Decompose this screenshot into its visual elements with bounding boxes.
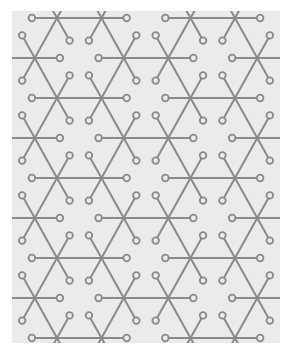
terminal-circle-icon <box>229 215 236 222</box>
terminal-circle-icon <box>219 312 226 319</box>
terminal-circle-icon <box>66 117 73 124</box>
lattice-pattern <box>12 11 280 343</box>
terminal-circle-icon <box>219 197 226 204</box>
terminal-circle-icon <box>19 272 26 279</box>
terminal-circle-icon <box>152 157 159 164</box>
terminal-circle-icon <box>133 237 140 244</box>
terminal-circle-icon <box>29 95 36 102</box>
terminal-circle-icon <box>133 112 140 119</box>
terminal-circle-icon <box>86 117 93 124</box>
terminal-circle-icon <box>133 192 140 199</box>
terminal-circle-icon <box>66 152 73 159</box>
terminal-circle-icon <box>133 157 140 164</box>
terminal-circle-icon <box>19 112 26 119</box>
terminal-circle-icon <box>57 215 64 222</box>
terminal-circle-icon <box>66 197 73 204</box>
terminal-circle-icon <box>162 95 169 102</box>
terminal-circle-icon <box>123 15 130 22</box>
terminal-circle-icon <box>200 312 207 319</box>
terminal-circle-icon <box>86 277 93 284</box>
pattern-panel <box>12 11 280 343</box>
terminal-circle-icon <box>200 117 207 124</box>
terminal-circle-icon <box>152 272 159 279</box>
terminal-circle-icon <box>152 192 159 199</box>
terminal-circle-icon <box>19 317 26 324</box>
terminal-circle-icon <box>19 192 26 199</box>
terminal-circle-icon <box>190 55 197 62</box>
terminal-circle-icon <box>57 295 64 302</box>
terminal-circle-icon <box>123 175 130 182</box>
terminal-circle-icon <box>200 232 207 239</box>
terminal-circle-icon <box>19 157 26 164</box>
terminal-circle-icon <box>267 317 274 324</box>
terminal-circle-icon <box>123 95 130 102</box>
terminal-circle-icon <box>133 77 140 84</box>
terminal-circle-icon <box>229 295 236 302</box>
terminal-circle-icon <box>152 77 159 84</box>
terminal-circle-icon <box>219 277 226 284</box>
terminal-circle-icon <box>86 37 93 44</box>
terminal-circle-icon <box>86 197 93 204</box>
terminal-circle-icon <box>267 77 274 84</box>
terminal-circle-icon <box>162 175 169 182</box>
terminal-circle-icon <box>95 55 102 62</box>
terminal-circle-icon <box>162 255 169 262</box>
terminal-circle-icon <box>66 312 73 319</box>
terminal-circle-icon <box>86 232 93 239</box>
terminal-circle-icon <box>133 317 140 324</box>
terminal-circle-icon <box>19 237 26 244</box>
terminal-circle-icon <box>66 277 73 284</box>
terminal-circle-icon <box>123 255 130 262</box>
terminal-circle-icon <box>219 117 226 124</box>
terminal-circle-icon <box>57 55 64 62</box>
terminal-circle-icon <box>95 135 102 142</box>
terminal-circle-icon <box>257 335 264 342</box>
terminal-circle-icon <box>123 335 130 342</box>
terminal-circle-icon <box>95 295 102 302</box>
terminal-circle-icon <box>257 175 264 182</box>
terminal-circle-icon <box>152 237 159 244</box>
terminal-circle-icon <box>29 335 36 342</box>
terminal-circle-icon <box>257 255 264 262</box>
terminal-circle-icon <box>19 77 26 84</box>
terminal-circle-icon <box>152 112 159 119</box>
terminal-circle-icon <box>162 15 169 22</box>
terminal-circle-icon <box>257 95 264 102</box>
terminal-circle-icon <box>66 232 73 239</box>
terminal-circle-icon <box>66 72 73 79</box>
terminal-circle-icon <box>219 37 226 44</box>
terminal-circle-icon <box>133 32 140 39</box>
terminal-circle-icon <box>267 157 274 164</box>
terminal-circle-icon <box>152 317 159 324</box>
terminal-circle-icon <box>86 72 93 79</box>
terminal-circle-icon <box>57 135 64 142</box>
terminal-circle-icon <box>219 232 226 239</box>
terminal-circle-icon <box>190 295 197 302</box>
terminal-circle-icon <box>267 192 274 199</box>
terminal-circle-icon <box>229 135 236 142</box>
terminal-circle-icon <box>200 72 207 79</box>
terminal-circle-icon <box>200 37 207 44</box>
terminal-circle-icon <box>86 152 93 159</box>
terminal-circle-icon <box>133 272 140 279</box>
terminal-circle-icon <box>162 335 169 342</box>
terminal-circle-icon <box>200 277 207 284</box>
terminal-circle-icon <box>29 175 36 182</box>
terminal-circle-icon <box>19 32 26 39</box>
terminal-circle-icon <box>229 55 236 62</box>
terminal-circle-icon <box>29 15 36 22</box>
terminal-circle-icon <box>267 237 274 244</box>
terminal-circle-icon <box>95 215 102 222</box>
terminal-circle-icon <box>219 152 226 159</box>
terminal-circle-icon <box>190 135 197 142</box>
terminal-circle-icon <box>200 197 207 204</box>
connector-lines <box>12 11 280 343</box>
terminal-circle-icon <box>190 215 197 222</box>
terminal-circle-icon <box>66 37 73 44</box>
terminal-circle-icon <box>257 15 264 22</box>
terminal-circle-icon <box>152 32 159 39</box>
terminal-circle-icon <box>219 72 226 79</box>
terminal-circle-icon <box>267 112 274 119</box>
terminal-circle-icon <box>267 32 274 39</box>
terminal-circle-icon <box>267 272 274 279</box>
